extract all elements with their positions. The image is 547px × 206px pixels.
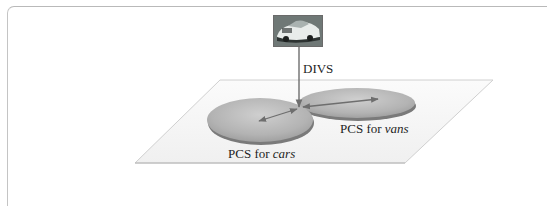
pcs-vans-region xyxy=(299,88,416,121)
pcs-vans-label-class: vans xyxy=(385,121,409,136)
pcs-cars-label-class: cars xyxy=(273,146,295,161)
pcs-vans-label-prefix: PCS for xyxy=(340,121,385,136)
feature-space-plane xyxy=(135,80,493,163)
pcs-cars-region xyxy=(207,98,314,145)
pcs-cars-label: PCS for cars xyxy=(228,147,295,160)
pcs-vans-label: PCS for vans xyxy=(340,122,409,135)
divs-label: DIVS xyxy=(303,62,333,75)
car-photo-icon xyxy=(273,15,323,47)
pcs-cars-label-prefix: PCS for xyxy=(228,146,273,161)
